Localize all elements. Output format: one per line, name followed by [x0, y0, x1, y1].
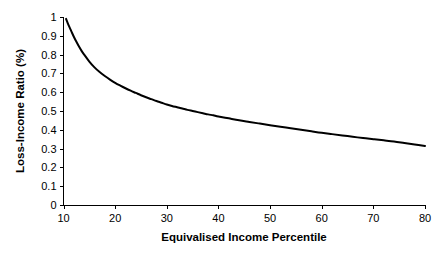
y-tick-label: 0.1 [41, 180, 56, 192]
y-tick-label: 0 [50, 199, 56, 211]
y-tick-label: 0.2 [41, 161, 56, 173]
y-tick-label: 0.6 [41, 86, 56, 98]
y-tick-label: 0.9 [41, 30, 56, 42]
x-tick-label: 50 [264, 212, 276, 224]
y-axis-title: Loss-Income Ratio (%) [14, 49, 26, 173]
y-tick-label: 0.7 [41, 67, 56, 79]
line-chart: 00.10.20.30.40.50.60.70.80.91 1020304050… [0, 0, 445, 261]
y-tick-label: 0.5 [41, 105, 56, 117]
x-tick-label: 10 [57, 212, 69, 224]
y-tick-label: 0.4 [41, 124, 56, 136]
x-tick-label: 30 [161, 212, 173, 224]
chart-container: 00.10.20.30.40.50.60.70.80.91 1020304050… [0, 0, 445, 261]
y-tick-label: 1 [50, 11, 56, 23]
y-tick-label: 0.3 [41, 143, 56, 155]
x-tick-label: 20 [109, 212, 121, 224]
x-tick-label: 40 [212, 212, 224, 224]
y-tick-label: 0.8 [41, 49, 56, 61]
x-tick-label: 70 [367, 212, 379, 224]
x-axis-title: Equivalised Income Percentile [161, 231, 327, 243]
x-tick-label: 80 [419, 212, 431, 224]
x-tick-label: 60 [316, 212, 328, 224]
